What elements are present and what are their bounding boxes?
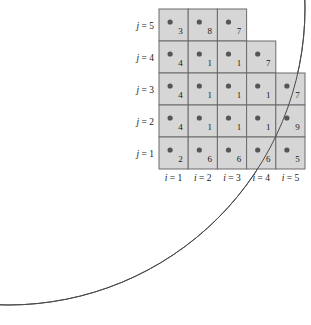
grid-cell — [188, 9, 217, 41]
cell-dot — [197, 19, 202, 24]
grid-cell — [159, 137, 188, 169]
col-label-i3: i = 3 — [223, 173, 241, 183]
cell-dot — [197, 115, 202, 120]
cell-value: 1 — [237, 90, 242, 100]
cell-dot — [255, 115, 260, 120]
grid-cell — [276, 137, 305, 169]
cell-value: 1 — [237, 58, 242, 68]
grid-cell — [159, 73, 188, 105]
cell-dot — [168, 147, 173, 152]
row-label-j4: j = 4 — [135, 53, 155, 63]
cell-dot — [226, 115, 231, 120]
row-label-j2: j = 2 — [135, 117, 155, 127]
grid-cell — [217, 137, 246, 169]
grid-cell — [159, 41, 188, 73]
grid-cell — [159, 9, 188, 41]
row-label-value: = 4 — [139, 53, 154, 63]
cell-value: 5 — [295, 154, 300, 164]
cell-dot — [168, 115, 173, 120]
col-label-value: = 2 — [197, 173, 212, 183]
row-label-value: = 2 — [139, 117, 154, 127]
grid-cell — [188, 105, 217, 137]
grid-cell — [247, 41, 276, 73]
cell-dot — [226, 83, 231, 88]
cell-value: 4 — [178, 122, 183, 132]
cell-value: 7 — [266, 58, 271, 68]
grid-cell — [188, 137, 217, 169]
cell-value: 4 — [178, 58, 183, 68]
row-label-value: = 5 — [139, 21, 154, 31]
cell-dot — [255, 83, 260, 88]
cell-dot — [226, 147, 231, 152]
figure-container: 3874117411174111926665 j = 5j = 4j = 3j … — [0, 0, 311, 325]
cell-value: 1 — [208, 122, 213, 132]
col-label-i4: i = 4 — [252, 173, 270, 183]
cell-dot — [197, 83, 202, 88]
col-label-value: = 3 — [226, 173, 241, 183]
circle-grid-diagram: 3874117411174111926665 j = 5j = 4j = 3j … — [0, 0, 311, 325]
cell-dot — [197, 147, 202, 152]
grid-cell — [217, 73, 246, 105]
cell-value: 4 — [178, 90, 183, 100]
cell-dot — [168, 51, 173, 56]
grid-cell — [159, 105, 188, 137]
cell-dot — [168, 83, 173, 88]
cell-value: 1 — [208, 90, 213, 100]
row-label-j5: j = 5 — [135, 21, 155, 31]
grid-cell — [247, 137, 276, 169]
col-label-value: = 4 — [255, 173, 270, 183]
cell-value: 7 — [295, 90, 300, 100]
cell-value: 1 — [208, 58, 213, 68]
cell-value: 8 — [208, 26, 213, 36]
grid-cell — [188, 41, 217, 73]
col-label-value: = 1 — [167, 173, 182, 183]
cell-value: 9 — [295, 122, 300, 132]
cell-value: 2 — [178, 154, 183, 164]
row-label-j1: j = 1 — [135, 149, 155, 159]
cell-value: 1 — [237, 122, 242, 132]
grid-cell — [217, 9, 246, 41]
col-label-i5: i = 5 — [282, 173, 300, 183]
cell-value: 6 — [208, 154, 213, 164]
row-axis-labels: j = 5j = 4j = 3j = 2j = 1 — [135, 21, 155, 159]
cell-value: 7 — [237, 26, 242, 36]
cell-dot — [197, 51, 202, 56]
cell-dot — [284, 83, 289, 88]
column-axis-labels: i = 1i = 2i = 3i = 4i = 5 — [165, 173, 300, 183]
row-label-j3: j = 3 — [135, 85, 155, 95]
grid-cell — [188, 73, 217, 105]
cell-dot — [226, 19, 231, 24]
cell-dot — [255, 51, 260, 56]
grid-cell — [247, 73, 276, 105]
cell-dot — [255, 147, 260, 152]
cell-value: 6 — [237, 154, 242, 164]
grid-cell — [217, 105, 246, 137]
row-label-value: = 1 — [139, 149, 154, 159]
cell-dot — [284, 147, 289, 152]
col-label-value: = 5 — [284, 173, 299, 183]
col-label-i2: i = 2 — [194, 173, 212, 183]
col-label-i1: i = 1 — [165, 173, 183, 183]
cell-value: 1 — [266, 122, 271, 132]
cell-dot — [226, 51, 231, 56]
grid-cell — [247, 105, 276, 137]
grid-cell — [276, 105, 305, 137]
row-label-value: = 3 — [139, 85, 154, 95]
cell-value: 6 — [266, 154, 271, 164]
cell-value: 3 — [178, 26, 183, 36]
cell-dot — [168, 19, 173, 24]
cell-value: 1 — [266, 90, 271, 100]
grid-cell — [217, 41, 246, 73]
